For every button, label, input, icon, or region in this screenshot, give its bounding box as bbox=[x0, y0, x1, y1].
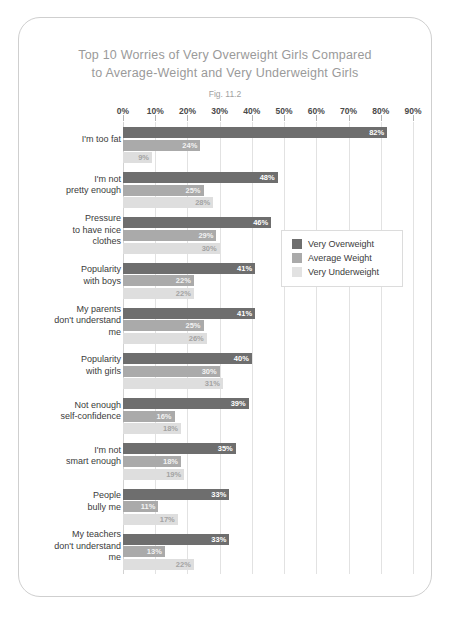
category-label-line: I'm not bbox=[3, 174, 121, 186]
bar-value-label: 22% bbox=[176, 289, 194, 298]
bar-value-label: 41% bbox=[237, 264, 255, 273]
bar-value-label: 26% bbox=[189, 334, 207, 343]
category-label-line: I'm too fat bbox=[3, 134, 121, 146]
bar-row: 48% bbox=[123, 172, 413, 183]
bar-value-label: 48% bbox=[260, 173, 278, 182]
axis-tickmark bbox=[381, 115, 382, 121]
bar-row: 33% bbox=[123, 534, 413, 545]
axis-tickmark bbox=[252, 115, 253, 121]
axis-tickmark bbox=[284, 115, 285, 121]
bar-row: 41% bbox=[123, 308, 413, 319]
legend-swatch-icon bbox=[292, 239, 302, 249]
bar-groups: I'm too fat82%24%9%I'm notpretty enough4… bbox=[19, 122, 433, 574]
bar-row: 18% bbox=[123, 423, 413, 434]
bar-value-label: 11% bbox=[141, 502, 159, 511]
category-label-line: Not enough bbox=[3, 400, 121, 412]
bar-row: 35% bbox=[123, 443, 413, 454]
bar-value-label: 9% bbox=[138, 153, 152, 162]
bar-value-label: 29% bbox=[198, 231, 216, 240]
bar-row: 26% bbox=[123, 333, 413, 344]
category-label-line: clothes bbox=[3, 236, 121, 248]
bar-group: Not enoughself-confidence39%16%18% bbox=[19, 393, 433, 438]
bar-group: I'm notsmart enough35%18%19% bbox=[19, 438, 433, 483]
x-axis-tick-labels: 0%10%20%30%40%50%60%70%80%90% bbox=[19, 106, 433, 120]
category-label-line: self-confidence bbox=[3, 411, 121, 423]
bar bbox=[123, 353, 252, 364]
category-label: Popularitywith boys bbox=[3, 264, 121, 287]
legend-item[interactable]: Very Underweight bbox=[292, 267, 393, 277]
bar-stack: 41%25%26% bbox=[123, 308, 413, 344]
bar-value-label: 22% bbox=[176, 276, 194, 285]
bar-row: 82% bbox=[123, 127, 413, 138]
bar-value-label: 16% bbox=[157, 412, 175, 421]
bar-row: 30% bbox=[123, 366, 413, 377]
axis-tickmark bbox=[220, 115, 221, 121]
category-label: Popularitywith girls bbox=[3, 354, 121, 377]
bar-stack: 35%18%19% bbox=[123, 443, 413, 479]
category-label-line: Popularity bbox=[3, 354, 121, 366]
bar-row: 39% bbox=[123, 398, 413, 409]
bar-row: 40% bbox=[123, 353, 413, 364]
bar-stack: 33%13%22% bbox=[123, 534, 413, 570]
bar-stack: 82%24%9% bbox=[123, 127, 413, 163]
category-label-line: My teachers bbox=[3, 529, 121, 541]
category-label-line: to have nice bbox=[3, 225, 121, 237]
bar-row: 25% bbox=[123, 185, 413, 196]
bar-value-label: 24% bbox=[182, 141, 200, 150]
bar-row: 16% bbox=[123, 411, 413, 422]
bar-stack: 39%16%18% bbox=[123, 398, 413, 434]
axis-tickmark bbox=[155, 115, 156, 121]
legend-item[interactable]: Very Overweight bbox=[292, 239, 393, 249]
category-label-line: me bbox=[3, 552, 121, 564]
bar-group: Popularitywith girls40%30%31% bbox=[19, 348, 433, 393]
bar-value-label: 19% bbox=[166, 470, 184, 479]
category-label-line: I'm not bbox=[3, 445, 121, 457]
bar-row: 24% bbox=[123, 140, 413, 151]
category-label-line: My parents bbox=[3, 304, 121, 316]
category-label-line: Popularity bbox=[3, 264, 121, 276]
bar bbox=[123, 308, 255, 319]
bar-value-label: 33% bbox=[211, 535, 229, 544]
category-label-line: with boys bbox=[3, 276, 121, 288]
category-label: Not enoughself-confidence bbox=[3, 400, 121, 423]
chart-card: Top 10 Worries of Very Overweight Girls … bbox=[18, 17, 432, 597]
bar-value-label: 13% bbox=[147, 547, 165, 556]
category-label: My teachersdon't understandme bbox=[3, 529, 121, 564]
legend-item[interactable]: Average Weight bbox=[292, 253, 393, 263]
bar-stack: 48%25%28% bbox=[123, 172, 413, 208]
bar-value-label: 31% bbox=[205, 379, 223, 388]
legend-label: Very Underweight bbox=[308, 267, 379, 277]
bar-value-label: 41% bbox=[237, 309, 255, 318]
bar-group: My parentsdon't understandme41%25%26% bbox=[19, 303, 433, 348]
bar-value-label: 25% bbox=[186, 186, 204, 195]
bar-value-label: 30% bbox=[202, 244, 220, 253]
bar-group: I'm notpretty enough48%25%28% bbox=[19, 167, 433, 212]
category-label-line: pretty enough bbox=[3, 185, 121, 197]
bar-row: 9% bbox=[123, 152, 413, 163]
legend-swatch-icon bbox=[292, 253, 302, 263]
plot-area: 0%10%20%30%40%50%60%70%80%90% I'm too fa… bbox=[19, 18, 433, 598]
bar-row: 33% bbox=[123, 489, 413, 500]
category-label-line: don't understand bbox=[3, 315, 121, 327]
category-label: I'm notpretty enough bbox=[3, 174, 121, 197]
chart-legend: Very OverweightAverage WeightVery Underw… bbox=[281, 230, 403, 287]
bar bbox=[123, 263, 255, 274]
bar-value-label: 22% bbox=[176, 560, 194, 569]
bar-row: 31% bbox=[123, 378, 413, 389]
bar-value-label: 46% bbox=[253, 218, 271, 227]
bar-value-label: 30% bbox=[202, 367, 220, 376]
bar-row: 25% bbox=[123, 320, 413, 331]
bar-group: I'm too fat82%24%9% bbox=[19, 122, 433, 167]
bar-row: 18% bbox=[123, 456, 413, 467]
category-label: Pressureto have niceclothes bbox=[3, 213, 121, 248]
bar-row: 46% bbox=[123, 217, 413, 228]
legend-label: Average Weight bbox=[308, 253, 372, 263]
bar-row: 19% bbox=[123, 469, 413, 480]
category-label: My parentsdon't understandme bbox=[3, 304, 121, 339]
bar-stack: 40%30%31% bbox=[123, 353, 413, 389]
bar-row: 22% bbox=[123, 288, 413, 299]
category-label-line: People bbox=[3, 490, 121, 502]
axis-tickmark bbox=[316, 115, 317, 121]
bar-row: 22% bbox=[123, 559, 413, 570]
category-label-line: don't understand bbox=[3, 541, 121, 553]
